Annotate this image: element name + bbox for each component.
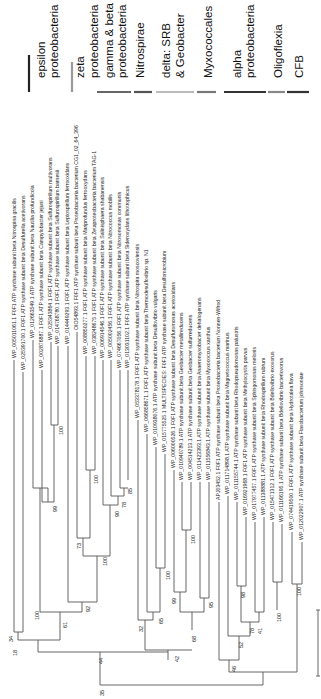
clade-label-oligoflexia: Oligoflexia	[272, 24, 284, 78]
leaf-label: WP_014449293.1 F0F1 ATP synthase subunit…	[64, 162, 70, 344]
bootstrap-value: 52	[238, 642, 244, 648]
leaf-label: WP_005002456.1 F0F1 ATP synthase subunit…	[107, 194, 113, 358]
leaf-label: WP_013031102.1 F0F1 ATP synthase subunit…	[124, 185, 130, 368]
bootstrap-value: 100	[165, 571, 171, 580]
clade-label-zeta-1: zeta	[74, 56, 86, 78]
bootstrap-value: 32	[138, 626, 144, 632]
bootstrap-value: 44	[98, 658, 104, 664]
clade-label-gamma-beta-1: gamma & beta	[103, 3, 115, 78]
leaf-label: WP_011388881.1 ATP synthase subunit beta…	[260, 358, 266, 515]
bootstrap-value: 61	[62, 622, 68, 628]
leaf-label: WP_017977457.1 F0F1 ATP synthase subunit…	[251, 346, 257, 520]
leaf-label: WP_016921968.1 F0F1 ATP synthase subunit…	[242, 347, 248, 515]
bootstrap-value: 78	[121, 502, 127, 508]
bootstrap-value: 100	[276, 613, 282, 622]
leaf-label: WP_038248675.1 F0F1 ATP synthase subunit…	[91, 151, 97, 354]
bootstrap-value: 92	[85, 606, 91, 612]
bootstrap-value: 95	[208, 602, 214, 608]
leaf-label: WP_011423393.1 ATP synthase subunit beta…	[196, 297, 202, 480]
leaf-label: WP_074667056.1 F0F1 ATP synthase subunit…	[116, 191, 122, 368]
leaf-label: WP_010938076.1 ATP synthase subunit beta…	[152, 290, 158, 445]
bootstrap-value: 68	[191, 636, 197, 642]
clade-label-myxococcales: Myxococcales	[202, 6, 214, 78]
leaf-label: WP_074419500.1 F0F1 ATP synthase subunit…	[288, 373, 294, 530]
leaf-label: WP_011556843.1 ATP synthase subunit beta…	[205, 326, 211, 480]
bootstrap-value: 42	[174, 656, 180, 662]
clade-label-cfb: CFB	[293, 55, 305, 78]
clade-label-epsilon-2: proteobacteria	[48, 4, 60, 78]
clade-headers: epsilon proteobacteria zeta proteobacter…	[29, 3, 309, 92]
leaf-label: WP_053378178.1 F0F1 ATP synthase subunit…	[134, 244, 140, 418]
clade-label-epsilon-1: epsilon	[35, 42, 47, 78]
leaf-label: WP_015471312.1 F0F1 ATP synthase subunit…	[269, 351, 275, 520]
bootstrap-value: 98	[240, 592, 246, 598]
leaf-label: WP_012663549.1 ATP synthase subunit beta…	[29, 185, 35, 338]
clade-label-gamma-beta-2: proteobacteria	[116, 4, 128, 78]
leaf-label: WP_066858671.1 F0F1 ATP synthase subunit…	[143, 249, 149, 432]
bootstrap-value: 99	[171, 598, 177, 604]
bootstrap-value: 46	[231, 666, 237, 672]
leaf-label: WP_012022907.1 ATP synthase subunit beta…	[298, 372, 304, 540]
leaf-labels: WP_005011061.1 F0F1 ATP synthase subunit…	[11, 125, 304, 540]
leaf-label: WP_005011061.1 F0F1 ATP synthase subunit…	[11, 198, 17, 358]
leaf-label: WP_002876887.1 F0F1 ATP synthase subunit…	[38, 200, 44, 368]
leaf-label: WP_006914546.1 F0F1 ATP synthase subunit…	[99, 176, 105, 358]
bootstrap-value: 41	[257, 628, 263, 634]
clade-label-delta-1: delta: SRB	[160, 23, 172, 78]
leaf-label: WP_014768780.1 F0F1 ATP synthase subunit…	[54, 170, 60, 344]
bootstrap-value: 99	[52, 506, 58, 512]
leaf-label: OIO54893.1 F0F1 ATP synthase subunit bet…	[73, 125, 79, 330]
leaf-label: WP_011166195.1 ATP synthase subunit beta…	[278, 357, 284, 522]
leaf-label: WP_011155744.1 ATP synthase subunit beta…	[233, 326, 239, 500]
clade-label-alpha-2: proteobacteria	[244, 4, 256, 78]
bootstrap-value: 100	[102, 557, 108, 566]
clade-label-nitrospirae: Nitrospirae	[134, 22, 146, 78]
bootstrap-value: 18	[12, 650, 18, 656]
clade-label-delta-2: & Geobacter	[174, 13, 186, 78]
leaf-label: WP_011714898.1 ATP synthase subunit beta…	[224, 332, 230, 494]
bootstrap-value: 85	[127, 488, 133, 494]
bootstrap-value: 35	[99, 690, 105, 696]
bootstrap-value: 100	[93, 475, 99, 484]
bootstrap-value: 100	[190, 535, 196, 544]
leaf-label: WP_025343864.1 F0F1 ATP synthase subunit…	[47, 157, 53, 340]
bootstrap-value: 73	[76, 543, 82, 549]
leaf-label: WP_025391700.1 F0F1 ATP synthase subunit…	[20, 195, 26, 370]
leaf-label: WP_010940789.1 ATP synthase subunit beta…	[178, 312, 184, 480]
phylogenetic-tree: epsilon proteobacteria zeta proteobacter…	[0, 0, 321, 699]
scale-bar	[316, 610, 320, 676]
leaf-label: WP_015775525.1 MULTISPECIES: F0F1 ATP sy…	[161, 251, 167, 452]
leaf-label: APJ03452.1 F0F1 ATP synthase subunit bet…	[215, 300, 221, 500]
bootstrap-value: 65	[158, 618, 164, 624]
clade-label-zeta-2: proteobacteria	[88, 4, 100, 78]
leaf-label: WP_006000526.1 F0F1 ATP synthase subunit…	[170, 281, 176, 468]
bootstrap-value: 100	[58, 426, 64, 435]
bootstrap-value: 78	[249, 628, 255, 634]
bootstrap-value: 34	[8, 636, 14, 642]
bootstrap-value: 100	[34, 611, 40, 620]
bootstrap-value: 100	[296, 587, 302, 596]
clade-label-alpha-1: alpha	[231, 49, 243, 78]
leaf-label: WP_008850277.1 F0F1 ATP synthase subunit…	[82, 170, 88, 354]
leaf-label: WP_004514213.1 ATP synthase subunit beta…	[187, 314, 193, 480]
bootstrap-values: 34 18 100 99 100 61 92 73 100 100 90 78 …	[8, 426, 302, 696]
bootstrap-value: 90	[114, 511, 120, 517]
